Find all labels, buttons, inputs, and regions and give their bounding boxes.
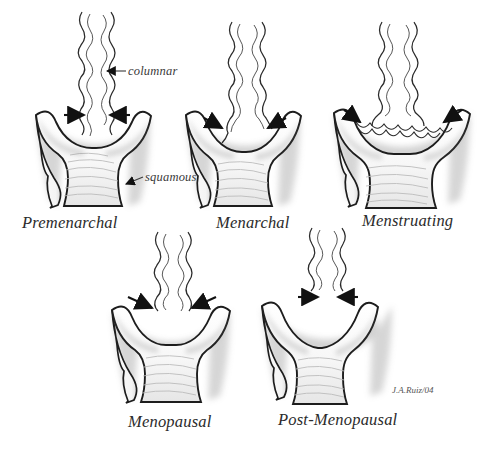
columnar-wall-left [308,228,315,291]
columnar-wall-right-inner [101,15,107,125]
panel-menstruating [334,22,470,208]
columnar-wall-right [186,232,192,311]
columnar-wall-left-inner [316,230,323,290]
panel-menarchal [186,22,301,208]
columnar-wall-right [340,228,346,291]
caption-premenarchal: Premenarchal [22,213,118,233]
columnar-wall-left [154,232,161,311]
junction-arrow-right [192,297,216,308]
junction-arrow-left [128,297,152,308]
columnar-wall-right-inner [178,235,184,311]
panel-premenarchal [36,12,151,208]
illustration-canvas: columnar squamous Premenarchal Menarchal… [0,0,495,455]
artist-signature: J.A.Ruiz/04 [392,385,434,395]
label-columnar: columnar [128,64,178,79]
panel-menopausal [112,232,230,403]
columnar-wall-left-inner [385,24,393,116]
columnar-wall-left [372,22,385,126]
panel-post-menopausal [262,228,392,404]
columnar-wall-left-inner [162,234,169,310]
columnar-wall-left [78,12,85,135]
columnar-wall-left-inner [86,14,93,136]
everted-columnar-folds [356,122,452,138]
caption-menopausal: Menopausal [128,412,212,432]
columnar-wall-right [412,22,424,126]
caption-post-menopausal: Post-Menopausal [278,410,397,430]
columnar-wall-right [109,12,115,135]
columnar-wall-right-inner [332,231,338,291]
caption-menstruating: Menstruating [362,211,453,231]
columnar-wall-right [260,22,272,129]
label-squamous: squamous [145,170,197,185]
caption-menarchal: Menarchal [216,213,290,233]
columnar-wall-right-inner [404,25,411,116]
